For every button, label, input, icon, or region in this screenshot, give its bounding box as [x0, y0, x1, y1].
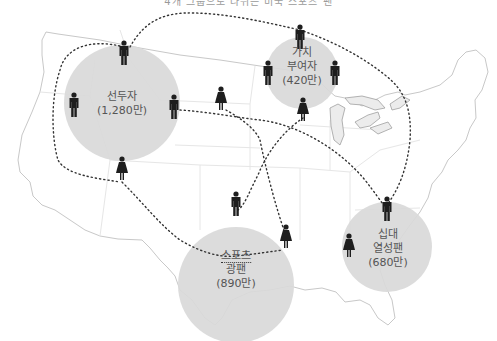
segment-name-line1: 십대: [368, 228, 408, 242]
segment-value: (420만): [282, 74, 322, 88]
segment-name-line1: 가치: [282, 46, 322, 60]
male-person-icon: [232, 191, 241, 216]
segment-label-teen-fans: 십대 열성팬 (680만): [368, 228, 408, 270]
female-person-icon: [215, 86, 227, 110]
segment-name-line2: 열성팬: [368, 242, 408, 256]
segment-label-sports-fans: 스포츠 광팬 (890만): [216, 249, 256, 291]
female-person-icon: [280, 224, 292, 248]
us-fan-segment-map: 4개 그룹으로 나뉘는 미국 스포츠 팬: [0, 0, 497, 341]
map-caption: 4개 그룹으로 나뉘는 미국 스포츠 팬: [0, 0, 497, 8]
segment-value: (1,280만): [97, 104, 147, 118]
segment-name-line2: 부여자: [282, 60, 322, 74]
segment-value: (680만): [368, 256, 408, 270]
segment-name-line1: 스포츠: [221, 250, 251, 263]
segment-name-line2: 광팬: [216, 263, 256, 277]
segment-circles: [64, 37, 432, 341]
segment-value: (890만): [216, 277, 256, 291]
segment-name: 선두자: [97, 90, 147, 104]
segment-label-value-adders: 가치 부여자 (420만): [282, 46, 322, 88]
segment-label-pioneers: 선두자 (1,280만): [97, 90, 147, 118]
great-lakes: [330, 96, 410, 145]
